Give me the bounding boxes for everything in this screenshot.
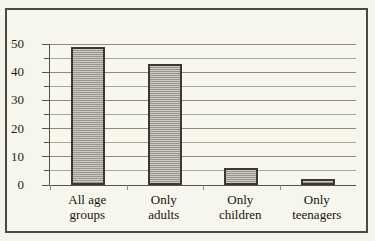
- x-axis-label-line: Only: [151, 192, 177, 207]
- bar-all-age-groups: [71, 47, 105, 185]
- bar-only-teenagers: [301, 179, 335, 185]
- x-axis-label-line: Only: [227, 192, 253, 207]
- x-axis-label-line: All age: [68, 192, 106, 207]
- y-axis-tick-5: [44, 170, 50, 171]
- bar-only-adults: [148, 64, 182, 185]
- cropped-title-sliver: ............: [0, 0, 375, 7]
- x-axis-label-all-age-groups: All agegroups: [49, 192, 126, 222]
- cropped-title-text: ............: [153, 0, 222, 3]
- y-axis-tick-25: [44, 114, 50, 115]
- y-axis-tick-30: [42, 100, 50, 101]
- y-axis-tick-45: [44, 58, 50, 59]
- x-axis-label-only-adults: Onlyadults: [126, 192, 203, 222]
- x-axis-label-line: Only: [304, 192, 330, 207]
- x-axis-tick-2: [203, 185, 204, 190]
- y-axis-label-30: 30: [0, 93, 24, 106]
- y-axis-label-10: 10: [0, 150, 24, 163]
- y-axis-tick-50: [42, 44, 50, 45]
- y-axis-tick-40: [42, 72, 50, 73]
- gridline-50: [50, 44, 356, 45]
- x-axis-label-line: teenagers: [279, 207, 356, 222]
- y-axis-label-50: 50: [0, 37, 24, 50]
- x-axis-label-line: children: [202, 207, 279, 222]
- plot-area: [49, 44, 356, 186]
- x-axis-label-line: adults: [126, 207, 203, 222]
- x-axis-label-only-children: Onlychildren: [202, 192, 279, 222]
- x-axis-label-only-teenagers: Onlyteenagers: [279, 192, 356, 222]
- y-axis-tick-35: [44, 86, 50, 87]
- y-axis-tick-15: [44, 142, 50, 143]
- x-axis-tick-0: [50, 185, 51, 190]
- bar-chart-figure: ............ 01020304050All agegroupsOnl…: [0, 0, 375, 241]
- y-axis-label-20: 20: [0, 122, 24, 135]
- x-axis-tick-3: [280, 185, 281, 190]
- x-axis-tick-1: [127, 185, 128, 190]
- bar-only-children: [224, 168, 258, 185]
- chart-frame: 01020304050All agegroupsOnlyadultsOnlych…: [5, 8, 368, 233]
- y-axis-tick-10: [42, 156, 50, 157]
- y-axis-tick-0: [42, 185, 50, 186]
- y-axis-tick-20: [42, 128, 50, 129]
- y-axis-label-40: 40: [0, 65, 24, 78]
- x-axis-label-line: groups: [49, 207, 126, 222]
- y-axis-label-0: 0: [0, 178, 24, 191]
